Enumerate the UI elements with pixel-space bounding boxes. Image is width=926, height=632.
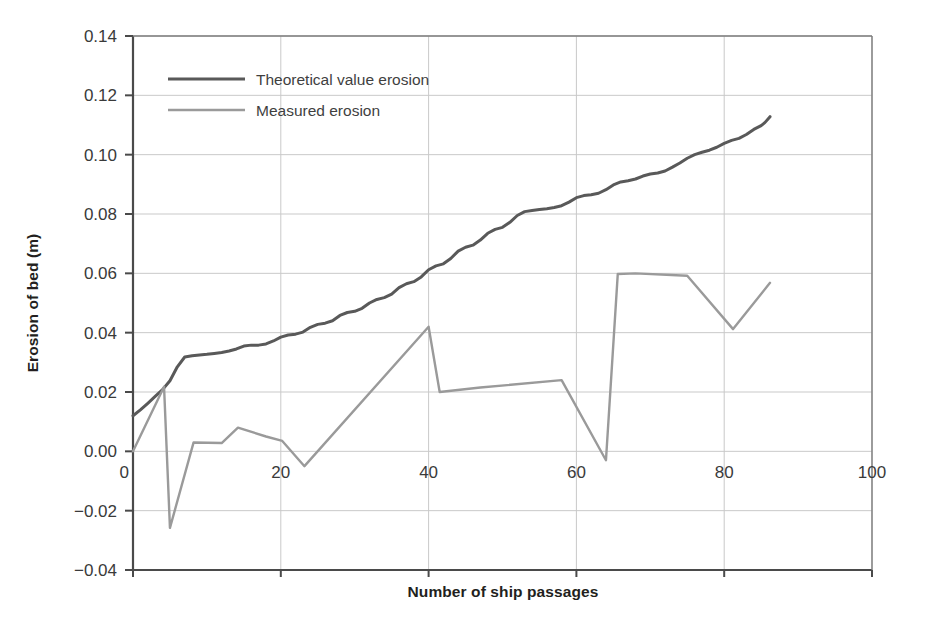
x-tick-label: 80	[715, 463, 734, 482]
gridlines	[133, 36, 872, 570]
y-tick-label: 0.06	[84, 264, 117, 283]
x-tick-label: 0	[120, 463, 129, 482]
plot-frame	[133, 36, 872, 570]
x-tick-label: 40	[419, 463, 438, 482]
erosion-line-chart: 020406080100 −0.04−0.020.000.020.040.060…	[0, 0, 926, 632]
y-tick-label: 0.00	[84, 442, 117, 461]
y-axis-ticks	[125, 36, 133, 570]
y-tick-label: 0.08	[84, 205, 117, 224]
series-line	[133, 273, 770, 528]
x-tick-label: 20	[271, 463, 290, 482]
y-tick-label: 0.14	[84, 27, 117, 46]
x-axis-tick-labels: 020406080100	[120, 463, 887, 482]
legend-label-1: Theoretical value erosion	[256, 71, 429, 88]
y-axis-tick-labels: −0.04−0.020.000.020.040.060.080.100.120.…	[74, 27, 117, 580]
series-line	[133, 117, 770, 416]
y-tick-label: 0.10	[84, 146, 117, 165]
y-tick-label: 0.04	[84, 324, 117, 343]
x-tick-label: 60	[567, 463, 586, 482]
y-tick-label: −0.04	[74, 561, 117, 580]
x-axis-title: Number of ship passages	[408, 583, 599, 600]
y-tick-label: 0.12	[84, 86, 117, 105]
y-tick-label: 0.02	[84, 383, 117, 402]
chart-figure: 020406080100 −0.04−0.020.000.020.040.060…	[0, 0, 926, 632]
data-series	[133, 117, 770, 528]
x-tick-label: 100	[858, 463, 886, 482]
y-axis-title: Erosion of bed (m)	[24, 234, 41, 373]
chart-legend: Theoretical value erosionMeasured erosio…	[168, 71, 429, 119]
legend-label-2: Measured erosion	[256, 102, 380, 119]
y-tick-label: −0.02	[74, 502, 117, 521]
